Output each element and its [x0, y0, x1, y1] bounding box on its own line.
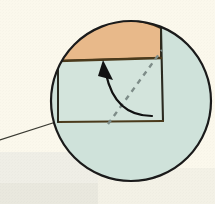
figure-root: Magnified detail callout Circular magnif… [0, 0, 215, 204]
figure-canvas [0, 0, 215, 204]
